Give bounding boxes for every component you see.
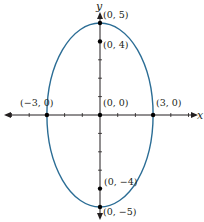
x-axis: x: [4, 109, 204, 122]
label-right-covertex: (3, 0): [156, 97, 182, 108]
label-center: (0, 0): [103, 97, 129, 108]
point-center: [98, 113, 102, 117]
label-top-focus: (0, 4): [103, 39, 129, 50]
point-bottom-focus: [98, 186, 102, 190]
point-right-covertex: [151, 113, 155, 117]
point-top-focus: [98, 39, 102, 43]
ellipse-graph: x y (0, 5) (0, 4) (−3, 0) (0, 0) (3, 0) …: [0, 0, 204, 222]
x-axis-label: x: [197, 109, 204, 122]
point-top-vertex: [98, 21, 102, 25]
label-left-covertex: (−3, 0): [20, 97, 54, 108]
point-bottom-vertex: [98, 205, 102, 209]
y-axis-label: y: [95, 0, 103, 13]
point-left-covertex: [45, 113, 49, 117]
label-bottom-vertex: (0, −5): [103, 206, 137, 217]
label-bottom-focus: (0, −4): [104, 176, 138, 187]
x-axis-left-arrow-icon: [4, 112, 11, 118]
label-top-vertex: (0, 5): [103, 9, 129, 20]
